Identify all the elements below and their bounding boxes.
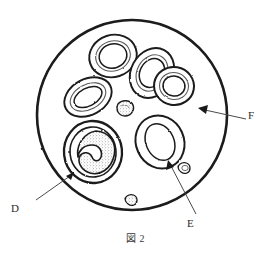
label-f: F	[248, 110, 254, 121]
label-e: E	[187, 218, 194, 229]
microscopy-field-diagram	[0, 0, 271, 258]
platelet-center	[117, 101, 134, 116]
platelet-bottom	[125, 195, 137, 206]
platelet-right	[178, 163, 190, 174]
figure-container: D E F 図 2	[0, 0, 271, 258]
label-d: D	[11, 203, 19, 214]
figure-caption: 図 2	[0, 230, 271, 245]
